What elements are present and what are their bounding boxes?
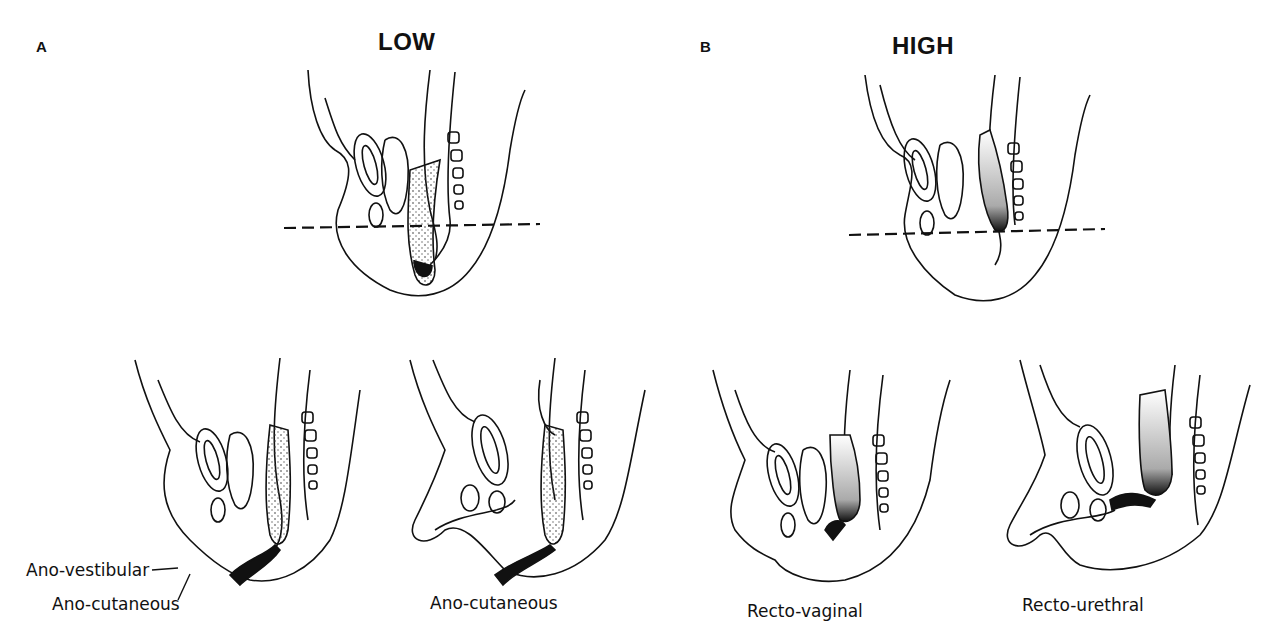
leader-lines	[0, 0, 1274, 640]
label-ano-cutaneous-male: Ano-cutaneous	[430, 593, 558, 613]
label-ano-cutaneous-female: Ano-cutaneous	[52, 594, 180, 614]
label-recto-urethral: Recto-urethral	[1022, 595, 1144, 615]
label-ano-vestibular: Ano-vestibular	[26, 560, 149, 580]
label-recto-vaginal: Recto-vaginal	[747, 601, 863, 621]
